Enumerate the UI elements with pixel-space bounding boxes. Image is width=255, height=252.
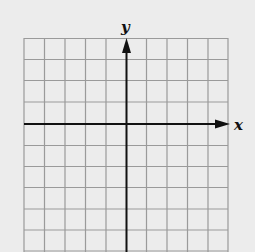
x-axis-label: x: [233, 116, 244, 134]
y-axis-arrow-icon: [122, 38, 131, 53]
y-axis-label: y: [120, 18, 131, 36]
coordinate-plane: x y: [0, 0, 255, 252]
